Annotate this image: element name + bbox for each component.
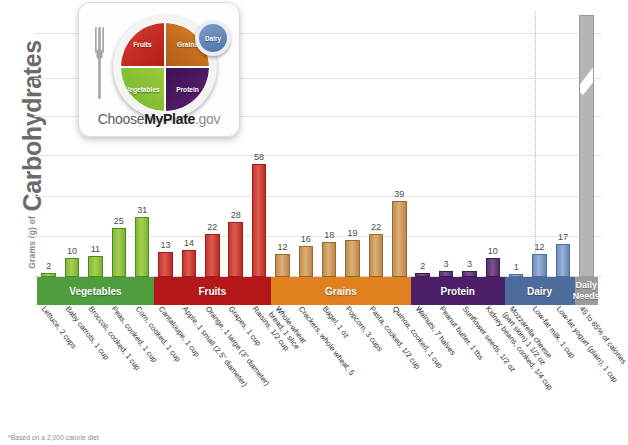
brand-wordmark: ChooseMyPlate.gov <box>79 111 239 127</box>
bar-value-label: 2 <box>46 261 51 271</box>
bar-value-label: 17 <box>558 232 568 242</box>
bar: 17 <box>556 244 570 277</box>
group-band-grains: Grains <box>271 277 411 305</box>
axis-break-mark <box>579 42 593 95</box>
brand-myplate: MyPlate <box>144 111 195 127</box>
bar-value-label: 28 <box>231 210 241 220</box>
group-band-protein: Protein <box>411 277 505 305</box>
bar-value-label: 16 <box>301 234 311 244</box>
bar: 12 <box>532 254 546 277</box>
bar-value-label: 3 <box>467 259 472 269</box>
bar: 16 <box>299 246 313 277</box>
group-band-fruits: Fruits <box>154 277 271 305</box>
bar: 10 <box>65 258 79 278</box>
bar-value-label: 22 <box>371 222 381 232</box>
bar-value-label: 10 <box>67 246 77 256</box>
bar: 58 <box>252 164 266 277</box>
bar-value-label: 14 <box>184 238 194 248</box>
bar: 12 <box>275 254 289 277</box>
bar: 25 <box>112 228 126 277</box>
plate-section-dairy: Dairy <box>195 20 231 56</box>
bar-value-label: 31 <box>137 205 147 215</box>
bar-value-label: 2 <box>420 261 425 271</box>
fork-icon <box>95 27 104 99</box>
group-band-daily-needs: DailyNeeds <box>575 277 598 305</box>
bar: 11 <box>88 256 102 277</box>
bar: 28 <box>228 222 242 277</box>
bar-value-label: 12 <box>535 242 545 252</box>
bar-value-label: 18 <box>324 230 334 240</box>
bar: 19 <box>345 240 359 277</box>
bar-value-label: 19 <box>348 228 358 238</box>
myplate-logo: Fruits Grains Vegetables Protein Dairy C… <box>78 2 240 137</box>
bar-value-label: 25 <box>114 216 124 226</box>
group-band-vegetables: Vegetables <box>37 277 154 305</box>
bar-value-label: 3 <box>444 259 449 269</box>
bar-value-label: 10 <box>488 246 498 256</box>
bar-value-label: 13 <box>161 240 171 250</box>
x-axis-tick-labels: Lettuce, 2 cupsBaby carrots, 1 cupBrocco… <box>34 305 601 425</box>
plate-section-vegetables: Vegetables <box>120 67 165 112</box>
footnote: *Based on a 2,000 calorie diet <box>8 434 99 441</box>
dairy-label: Dairy <box>199 24 227 52</box>
bar-value-label: 12 <box>277 242 287 252</box>
bar: 225 to325* <box>579 15 593 277</box>
bar: 18 <box>322 242 336 277</box>
brand-choose: Choose <box>98 111 144 127</box>
bar: 22 <box>369 234 383 277</box>
bar-value-label: 22 <box>207 222 217 232</box>
plate-section-protein: Protein <box>165 67 210 112</box>
plate-section-fruits: Fruits <box>120 22 165 67</box>
bar: 31 <box>135 217 149 277</box>
bar: 13 <box>158 252 172 277</box>
bar-value-label: 1 <box>514 262 519 272</box>
bar: 10 <box>486 258 500 278</box>
bar-value-label: 39 <box>394 189 404 199</box>
group-band-dairy: Dairy <box>505 277 575 305</box>
bar-value-label: 11 <box>91 244 100 254</box>
bar: 39 <box>392 201 406 277</box>
bar: 14 <box>182 250 196 277</box>
brand-gov: .gov <box>195 111 220 127</box>
group-bands: VegetablesFruitsGrainsProteinDairyDailyN… <box>34 277 601 305</box>
bar: 22 <box>205 234 219 277</box>
bar-value-label: 58 <box>254 152 264 162</box>
